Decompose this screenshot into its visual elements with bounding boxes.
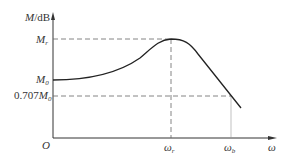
wb-label: ωb: [224, 142, 235, 155]
y-axis-arrow-icon: [51, 12, 55, 20]
x-axis-label: ω: [268, 142, 276, 153]
m0-label: M0: [36, 74, 49, 87]
origin-label: O: [42, 140, 50, 151]
wr-label: ωr: [164, 142, 175, 155]
bandwidth-level-label: 0.707M0: [14, 90, 51, 103]
y-axis-label: M/dB: [25, 12, 50, 23]
x-axis-arrow-icon: [268, 136, 277, 140]
magnitude-curve: [53, 39, 241, 108]
mr-label: Mr: [36, 34, 48, 47]
